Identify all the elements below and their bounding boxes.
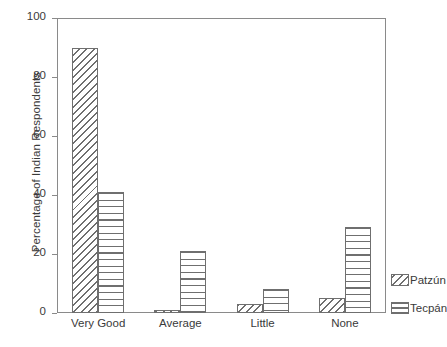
- y-axis-tick: 80: [0, 77, 57, 78]
- legend-swatch-patzun: [391, 274, 409, 286]
- y-axis-tick-mark: [52, 313, 57, 314]
- legend-swatch-tecpan: [391, 302, 409, 314]
- bar-patzun: [237, 304, 263, 313]
- bar-tecpan: [263, 289, 289, 313]
- y-axis-tick: 0: [0, 313, 57, 314]
- bar-patzun: [72, 48, 98, 314]
- bar-group: [237, 18, 289, 313]
- bar-tecpan: [180, 251, 206, 313]
- bars-container: [57, 18, 386, 313]
- bar-group: [319, 18, 371, 313]
- y-axis-title: Percentage of Indian Respondents: [30, 22, 42, 302]
- y-axis-tick: 20: [0, 254, 57, 255]
- legend-label: Patzún: [410, 274, 446, 286]
- legend-item: Patzún: [391, 272, 424, 287]
- y-axis-tick: 40: [0, 195, 57, 196]
- legend-item: Tecpán: [391, 300, 424, 315]
- legend-label: Tecpán: [410, 302, 447, 314]
- bar-tecpan: [98, 192, 124, 313]
- y-axis-tick-label: 0: [40, 305, 46, 317]
- y-axis-tick-label: 20: [33, 246, 46, 258]
- bar-group: [154, 18, 206, 313]
- bar-tecpan: [345, 227, 371, 313]
- y-axis-tick-label: 100: [27, 10, 46, 22]
- bar-group: [72, 18, 124, 313]
- y-axis-tick-label: 40: [33, 187, 46, 199]
- y-axis-tick-label: 80: [33, 69, 46, 81]
- y-axis-tick: 60: [0, 136, 57, 137]
- bar-patzun: [319, 298, 345, 313]
- bar-patzun: [154, 310, 180, 313]
- y-axis-tick: 100: [0, 18, 57, 19]
- chart-legend: PatzúnTecpán: [391, 272, 424, 328]
- y-axis-tick-label: 60: [33, 128, 46, 140]
- x-axis-tick-label: None: [285, 317, 405, 329]
